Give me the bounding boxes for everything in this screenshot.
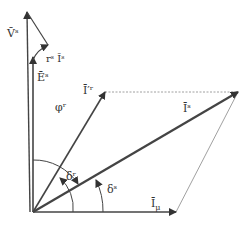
label-i-mu-sub: μ — [155, 203, 160, 212]
i-r-phasor — [33, 92, 105, 212]
phasor-diagram: V̄ˢ rˢ Īˢ Ēˢ Ī′ʳ φʳ Īˢ δʳ δˢ Īμ — [0, 0, 248, 227]
label-delta-s: δˢ — [107, 184, 117, 195]
label-is: Īˢ — [183, 103, 191, 114]
label-phi: φʳ — [55, 102, 67, 113]
label-vs: V̄ˢ — [7, 28, 19, 39]
label-delta-r: δʳ — [66, 171, 76, 182]
label-i-mu: Īμ — [151, 198, 161, 212]
v-s-phasor — [27, 12, 30, 212]
diagram-canvas — [0, 0, 248, 227]
rs-is-drop-line — [27, 12, 48, 45]
label-rs-is: rˢ Īˢ — [46, 54, 65, 64]
label-es: Ēˢ — [37, 72, 49, 83]
label-ir: Ī′ʳ — [83, 85, 94, 96]
delta-s-arc — [96, 180, 103, 212]
